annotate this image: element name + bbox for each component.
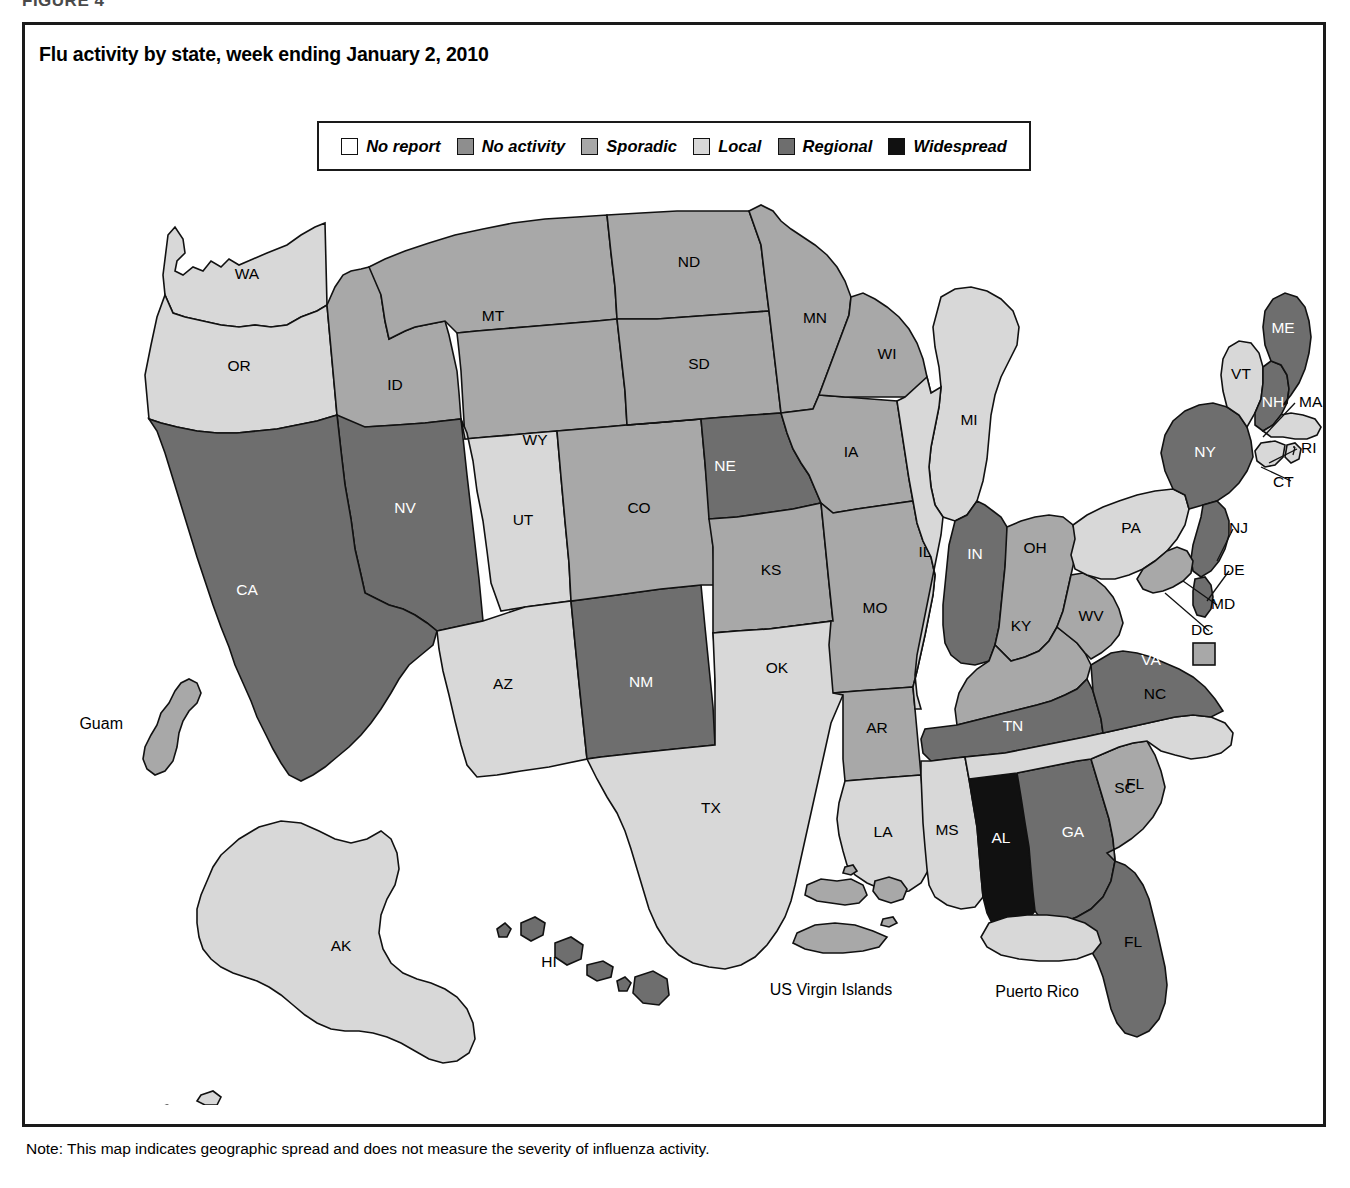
label-NH: NH: [1262, 393, 1284, 410]
label-WV: WV: [1079, 607, 1105, 624]
territory-VI-1: [805, 879, 867, 905]
label-NC: NC: [1144, 685, 1166, 702]
legend-swatch-no-activity: [457, 138, 474, 155]
label-VA: VA: [1141, 651, 1161, 668]
territory-label-VI: US Virgin Islands: [770, 981, 892, 998]
figure-frame: Flu activity by state, week ending Janua…: [22, 22, 1326, 1127]
legend-label-local: Local: [718, 137, 761, 156]
state-HI-5: [617, 977, 631, 991]
territory-VI-2: [873, 877, 907, 903]
label-HI: HI: [541, 953, 557, 970]
label-NJ: NJ: [1229, 519, 1248, 536]
label-MN: MN: [803, 309, 827, 326]
state-HI-4: [587, 961, 613, 981]
label-UT: UT: [513, 511, 534, 528]
label-TX: TX: [701, 799, 721, 816]
legend-item-local[interactable]: Local: [693, 137, 761, 156]
label-WY: WY: [523, 431, 548, 448]
label-MO: MO: [863, 599, 888, 616]
label-DE: DE: [1223, 561, 1245, 578]
territory-label-PR: Puerto Rico: [995, 983, 1079, 1000]
label-RI: RI: [1301, 439, 1317, 456]
territory-VI-dot-2: [881, 917, 897, 927]
state-AK-aleutians-1: [197, 1091, 221, 1105]
dc-swatch: [1193, 643, 1215, 665]
legend-swatch-no-report: [341, 138, 358, 155]
legend-swatch-regional: [778, 138, 795, 155]
label-PA: PA: [1121, 519, 1141, 536]
legend-swatch-widespread: [888, 138, 905, 155]
label-IA: IA: [844, 443, 859, 460]
label-WI: WI: [878, 345, 897, 362]
label-MD: MD: [1211, 595, 1235, 612]
label-KS: KS: [761, 561, 782, 578]
legend-label-sporadic: Sporadic: [606, 137, 677, 156]
territory-VI-3: [793, 923, 887, 953]
label-MI: MI: [960, 411, 977, 428]
legend-item-regional[interactable]: Regional: [778, 137, 873, 156]
label-DC: DC: [1191, 621, 1213, 638]
label-CT: CT: [1273, 473, 1294, 490]
label-MS: MS: [935, 821, 958, 838]
label-IL: IL: [919, 543, 932, 560]
state-HI-3: [555, 937, 583, 965]
state-HI-6: [633, 971, 669, 1005]
label-IN: IN: [967, 545, 983, 562]
label-ID: ID: [387, 376, 403, 393]
territory-GU: [143, 679, 201, 775]
label-NE: NE: [714, 457, 736, 474]
territory-label-GU: Guam: [79, 715, 123, 732]
state-HI-2: [521, 917, 545, 941]
label-MA: MA: [1299, 393, 1323, 410]
label-NM: NM: [629, 673, 653, 690]
label-WA: WA: [235, 265, 260, 282]
state-NM: [571, 585, 715, 759]
label-SC-real: SC: [1114, 779, 1136, 796]
label-FL-real: FL: [1124, 933, 1142, 950]
legend-label-no-activity: No activity: [482, 137, 565, 156]
label-OK: OK: [766, 659, 789, 676]
label-OH: OH: [1023, 539, 1046, 556]
label-LA: LA: [874, 823, 894, 840]
legend-label-no-report: No report: [366, 137, 440, 156]
legend-item-widespread[interactable]: Widespread: [888, 137, 1006, 156]
label-KY: KY: [1011, 617, 1032, 634]
us-flu-activity-map: WA OR ID MT WY NV CA UT AZ NM CO ND SD N…: [25, 175, 1323, 1105]
label-ND: ND: [678, 253, 700, 270]
label-ME: ME: [1271, 319, 1294, 336]
legend-label-widespread: Widespread: [913, 137, 1006, 156]
label-CO: CO: [627, 499, 650, 516]
page-title: Flu activity by state, week ending Janua…: [39, 43, 489, 66]
label-AL: AL: [992, 829, 1011, 846]
legend-item-no-report[interactable]: No report: [341, 137, 440, 156]
label-MT: MT: [482, 307, 505, 324]
label-NY: NY: [1194, 443, 1216, 460]
label-CA: CA: [236, 581, 258, 598]
figure-label: FIGURE 4: [22, 0, 104, 11]
territory-PR: [981, 915, 1101, 961]
legend-swatch-sporadic: [581, 138, 598, 155]
label-OR: OR: [227, 357, 250, 374]
label-SD: SD: [688, 355, 710, 372]
legend-item-no-activity[interactable]: No activity: [457, 137, 565, 156]
map-svg: WA OR ID MT WY NV CA UT AZ NM CO ND SD N…: [25, 175, 1323, 1105]
map-note: Note: This map indicates geographic spre…: [26, 1140, 710, 1158]
label-TN: TN: [1003, 717, 1024, 734]
label-AK: AK: [331, 937, 352, 954]
state-MI: [929, 287, 1019, 521]
label-AZ: AZ: [493, 675, 513, 692]
legend-label-regional: Regional: [803, 137, 873, 156]
label-AR: AR: [866, 719, 888, 736]
legend-swatch-local: [693, 138, 710, 155]
label-NV: NV: [394, 499, 416, 516]
label-VT: VT: [1231, 365, 1251, 382]
state-WY: [457, 319, 627, 439]
legend-item-sporadic[interactable]: Sporadic: [581, 137, 677, 156]
state-HI-1: [497, 923, 511, 937]
map-legend: No report No activity Sporadic Local Reg…: [317, 121, 1031, 171]
label-GA: GA: [1062, 823, 1085, 840]
